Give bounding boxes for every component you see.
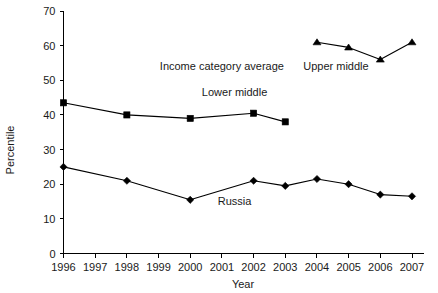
annotation-group: Income category averageUpper middleLower… <box>160 60 369 207</box>
x-tick-label: 2003 <box>273 261 297 273</box>
chart-plot-area: 010203040506070 199619971998199920002001… <box>0 0 438 293</box>
series-upper-middle <box>313 39 416 62</box>
data-point-marker <box>60 163 67 170</box>
data-point-marker <box>282 182 289 189</box>
annotation-upper-middle: Upper middle <box>303 60 368 72</box>
y-tick-marks <box>60 11 64 254</box>
data-point-marker <box>250 177 257 184</box>
y-tick-labels: 010203040506070 <box>43 5 55 260</box>
data-point-marker <box>313 39 321 45</box>
data-point-marker <box>282 119 288 125</box>
y-tick-label: 60 <box>43 40 55 52</box>
y-tick-label: 10 <box>43 213 55 225</box>
x-tick-label: 2001 <box>210 261 234 273</box>
data-point-marker <box>313 175 320 182</box>
annotation-income-category-average: Income category average <box>160 60 284 72</box>
data-point-marker <box>408 193 415 200</box>
x-axis-title: Year <box>232 278 255 290</box>
x-tick-label: 2000 <box>178 261 202 273</box>
data-point-marker <box>376 56 384 62</box>
data-point-marker <box>124 112 130 118</box>
series-line-2 <box>317 42 412 59</box>
x-tick-label: 2005 <box>336 261 360 273</box>
y-tick-label: 0 <box>49 248 55 260</box>
x-tick-label: 1996 <box>51 261 75 273</box>
x-tick-label: 2004 <box>305 261 329 273</box>
axes <box>64 11 425 254</box>
x-tick-label: 1999 <box>146 261 170 273</box>
annotation-russia: Russia <box>218 195 253 207</box>
y-tick-label: 30 <box>43 144 55 156</box>
data-point-marker <box>345 181 352 188</box>
x-tick-label: 1997 <box>83 261 107 273</box>
chart-figure: 010203040506070 199619971998199920002001… <box>0 0 438 293</box>
data-point-marker <box>408 39 416 45</box>
x-tick-labels: 1996199719981999200020012002200320042005… <box>51 261 424 273</box>
annotation-lower-middle: Lower middle <box>202 86 267 98</box>
x-tick-label: 2002 <box>241 261 265 273</box>
data-point-marker <box>187 115 193 121</box>
x-tick-marks <box>64 254 413 258</box>
x-tick-label: 1998 <box>115 261 139 273</box>
y-tick-label: 40 <box>43 109 55 121</box>
x-tick-label: 2007 <box>400 261 424 273</box>
data-point-marker <box>60 100 66 106</box>
y-axis-title: Percentile <box>4 126 16 175</box>
data-point-marker <box>123 177 130 184</box>
data-point-marker <box>377 191 384 198</box>
y-tick-label: 70 <box>43 5 55 17</box>
data-point-marker <box>250 110 256 116</box>
y-tick-label: 50 <box>43 74 55 86</box>
data-point-marker <box>187 196 194 203</box>
x-tick-label: 2006 <box>368 261 392 273</box>
series-lower-middle <box>60 100 288 125</box>
y-tick-label: 20 <box>43 178 55 190</box>
